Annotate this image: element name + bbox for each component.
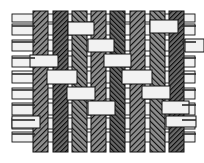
weft-over-segment (185, 39, 204, 52)
weft-over-segment (150, 20, 178, 33)
weft-over-segment (88, 39, 114, 52)
weft-over-segment (30, 55, 58, 67)
weft-over-segment (104, 54, 131, 67)
weft-over-segment (47, 70, 77, 84)
weft-over-segment (88, 101, 115, 115)
weft-over-segment (166, 116, 196, 127)
weft-over-segment (122, 70, 152, 84)
warp-thread (33, 11, 48, 152)
weave-diagram (0, 0, 204, 163)
weft-over-segment (162, 101, 189, 114)
weft-over-segment (12, 116, 40, 128)
weft-over-segment (67, 87, 95, 100)
weft-over-segment (142, 86, 170, 99)
weave-figure-canvas (0, 0, 204, 163)
weft-over-segment (68, 22, 94, 35)
